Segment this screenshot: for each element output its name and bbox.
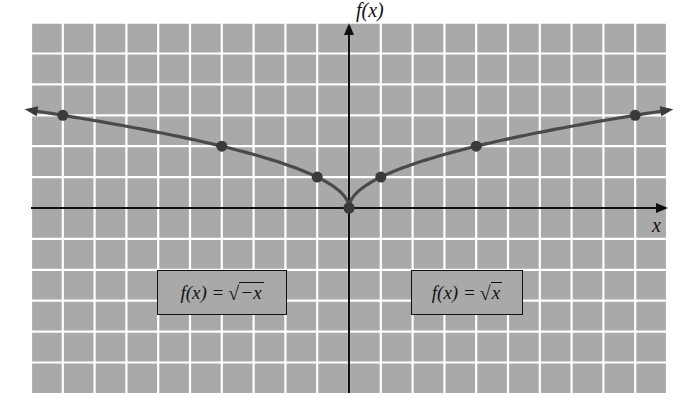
data-point <box>312 172 323 183</box>
radicand: −x <box>239 282 263 303</box>
data-point <box>216 141 227 152</box>
data-point <box>57 110 68 121</box>
graph-canvas: x f(x) <box>0 0 691 413</box>
x-axis-label: x <box>651 214 661 236</box>
radicand: x <box>491 282 502 303</box>
data-point <box>344 203 355 214</box>
radical-icon: √ <box>228 283 239 303</box>
equation-lhs: f(x) = <box>180 282 224 304</box>
data-point <box>630 110 641 121</box>
equation-label-right: f(x) = √ x <box>411 270 523 315</box>
y-axis-label: f(x) <box>356 0 384 22</box>
sqrt-expression: √ −x <box>228 282 263 303</box>
equation-lhs: f(x) = <box>432 282 476 304</box>
data-point <box>471 141 482 152</box>
data-point <box>375 172 386 183</box>
sqrt-expression: √ x <box>480 282 502 303</box>
radical-icon: √ <box>480 283 491 303</box>
equation-label-left: f(x) = √ −x <box>157 270 287 315</box>
